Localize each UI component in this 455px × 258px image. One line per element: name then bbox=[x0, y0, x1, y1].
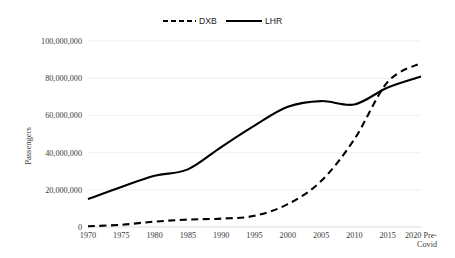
y-tick-label: 60,000,000 bbox=[45, 111, 82, 120]
x-tick-label: 2010 bbox=[346, 231, 362, 240]
y-axis-title: Passengers bbox=[23, 126, 33, 164]
x-tick-label: 2000 bbox=[280, 231, 296, 240]
gridlines bbox=[88, 41, 421, 227]
x-tick-label: 2020 Pre- bbox=[405, 231, 437, 240]
x-axis-tick-labels: 1970197519801985199019952000200520102015… bbox=[80, 231, 437, 249]
x-tick-label: 1990 bbox=[213, 231, 229, 240]
y-tick-label: 20,000,000 bbox=[45, 186, 82, 195]
y-tick-label: 40,000,000 bbox=[45, 149, 82, 158]
passenger-traffic-line-chart: 020,000,00040,000,00060,000,00080,000,00… bbox=[0, 0, 455, 258]
x-tick-label: 1970 bbox=[80, 231, 96, 240]
chart-container: 020,000,00040,000,00060,000,00080,000,00… bbox=[0, 0, 455, 258]
data-series-group bbox=[88, 63, 421, 226]
legend-label-lhr: LHR bbox=[265, 16, 282, 26]
chart-legend: DXBLHR bbox=[163, 16, 282, 26]
x-tick-label: 2015 bbox=[380, 231, 396, 240]
y-axis-title-text: Passengers bbox=[23, 126, 33, 164]
series-line-lhr bbox=[88, 77, 421, 200]
y-axis-tick-labels: 020,000,00040,000,00060,000,00080,000,00… bbox=[41, 37, 82, 232]
x-tick-label: 1975 bbox=[113, 231, 129, 240]
y-tick-label: 100,000,000 bbox=[41, 37, 82, 46]
x-tick-label: 1980 bbox=[146, 231, 162, 240]
x-tick-label: 1985 bbox=[180, 231, 196, 240]
x-tick-label: 1995 bbox=[246, 231, 262, 240]
x-tick-label-wrap: Covid bbox=[417, 240, 437, 249]
legend-label-dxb: DXB bbox=[199, 16, 217, 26]
y-tick-label: 80,000,000 bbox=[45, 74, 82, 83]
x-tick-label: 2005 bbox=[313, 231, 329, 240]
series-line-dxb bbox=[88, 63, 421, 226]
